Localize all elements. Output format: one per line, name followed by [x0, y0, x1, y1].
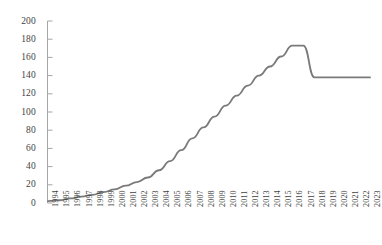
x-axis-tick-label: 2014 [273, 190, 282, 207]
x-axis-tick-label: 2013 [262, 190, 271, 207]
x-axis-tick-label: 2011 [240, 191, 249, 207]
x-axis-tick-label: 2004 [162, 190, 171, 207]
x-axis-tick-label: 2023 [373, 190, 382, 207]
y-axis-tick-label: 120 [10, 88, 36, 98]
x-axis-tick-label: 2018 [318, 190, 327, 207]
x-axis-tick-label: 2020 [340, 190, 349, 207]
x-axis-tick-label: 2009 [218, 190, 227, 207]
x-axis-tick-label: 1995 [62, 190, 71, 207]
y-axis-tick-label: 140 [10, 70, 36, 80]
y-axis-tick-label: 0 [10, 198, 36, 208]
x-axis-tick-label: 2003 [151, 190, 160, 207]
x-axis-tick-label: 2008 [207, 190, 216, 207]
y-axis-tick-label: 60 [10, 143, 36, 153]
x-axis-tick-label: 2016 [295, 190, 304, 207]
x-axis-tick-label: 2012 [251, 190, 260, 207]
y-axis-tick-label: 180 [10, 34, 36, 44]
x-axis-tick-label: 2017 [307, 190, 316, 207]
x-axis-tick-label: 2006 [184, 190, 193, 207]
x-axis-tick-label: 1994 [51, 190, 60, 207]
x-axis-tick-label: 1999 [107, 190, 116, 207]
y-axis-ticks [48, 21, 53, 203]
y-axis-tick-label: 200 [10, 16, 36, 26]
x-axis-tick-label: 2015 [284, 190, 293, 207]
y-axis-tick-label: 100 [10, 107, 36, 117]
x-axis-tick-label: 2001 [129, 190, 138, 207]
x-axis-tick-label: 2000 [118, 190, 127, 207]
x-axis-tick-label: 2019 [329, 190, 338, 207]
y-axis-tick-label: 160 [10, 52, 36, 62]
x-axis-tick-label: 2010 [229, 190, 238, 207]
x-axis-tick-label: 2005 [173, 190, 182, 207]
x-axis-tick-label: 2021 [351, 190, 360, 207]
y-axis-tick-label: 20 [10, 179, 36, 189]
x-axis-tick-label: 1998 [96, 190, 105, 207]
x-axis-tick-label: 2022 [362, 190, 371, 207]
y-axis-tick-label: 40 [10, 161, 36, 171]
x-axis-tick-label: 2007 [196, 190, 205, 207]
y-axis-tick-label: 80 [10, 125, 36, 135]
x-axis-tick-label: 1997 [85, 190, 94, 207]
y-axis [48, 21, 53, 203]
x-axis-tick-label: 1996 [73, 190, 82, 207]
x-axis-tick-label: 2002 [140, 190, 149, 207]
data-series-line [48, 46, 370, 202]
